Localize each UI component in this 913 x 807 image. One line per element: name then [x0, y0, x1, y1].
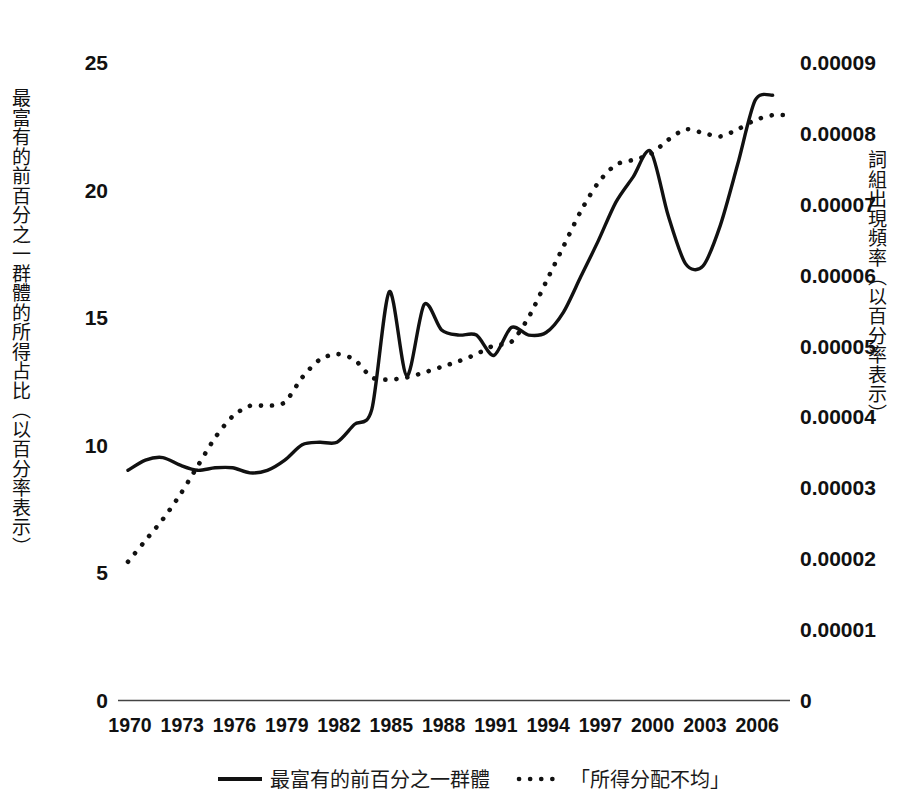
y-tick-left-10: 10: [85, 434, 108, 457]
legend-label-dotted: 「所得分配不均」: [570, 768, 730, 792]
legend-label-solid: 最富有的前百分之一群體: [270, 768, 490, 792]
y-tick-right-3: 0.00003: [800, 476, 876, 499]
series-line-top-one-percent: [128, 94, 773, 473]
y-tick-right-8: 0.00008: [800, 122, 876, 145]
y-tick-left-5: 5: [96, 561, 108, 584]
legend: 最富有的前百分之一群體 「所得分配不均」: [218, 768, 730, 792]
y-axis-left-ticks: 0510152025: [85, 51, 109, 712]
y-tick-right-2: 0.00002: [800, 547, 876, 570]
y-tick-right-0: 0: [800, 689, 812, 712]
y-axis-left-title: 最富有的前百分之一群體的所得占比（以百分率表示）: [10, 88, 44, 688]
y-tick-left-20: 20: [85, 179, 108, 202]
x-tick-1988: 1988: [422, 714, 466, 736]
y-tick-left-25: 25: [85, 51, 109, 74]
x-tick-1970: 1970: [108, 714, 152, 736]
x-tick-1994: 1994: [526, 714, 570, 736]
y-tick-left-15: 15: [85, 306, 109, 329]
x-tick-1979: 1979: [265, 714, 309, 736]
x-tick-1985: 1985: [370, 714, 414, 736]
x-axis-ticks: 1970197319761979198219851988199119941997…: [108, 714, 779, 736]
y-axis-right-title: 詞組出現頻率（以百分率表示）: [866, 150, 900, 670]
y-tick-right-1: 0.00001: [800, 618, 876, 641]
x-tick-1973: 1973: [161, 714, 205, 736]
x-tick-1991: 1991: [474, 714, 518, 736]
x-tick-2000: 2000: [631, 714, 675, 736]
chart-container: 0510152025 00.000010.000020.000030.00004…: [0, 0, 913, 807]
x-tick-1976: 1976: [213, 714, 257, 736]
series-line-income-inequality-phrase: [128, 115, 790, 562]
x-tick-1982: 1982: [317, 714, 361, 736]
y-tick-right-9: 0.00009: [800, 51, 876, 74]
x-tick-1997: 1997: [579, 714, 622, 736]
income-inequality-chart: 0510152025 00.000010.000020.000030.00004…: [0, 0, 913, 807]
y-tick-left-0: 0: [96, 689, 108, 712]
x-tick-2006: 2006: [735, 714, 779, 736]
x-tick-2003: 2003: [683, 714, 727, 736]
